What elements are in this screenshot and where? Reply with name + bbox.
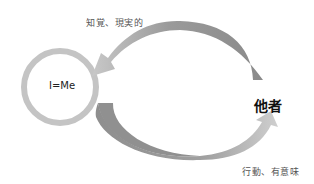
- self-other-cycle-diagram: 知覚、現実的 I=Me 他者 行動、有意味: [0, 0, 314, 184]
- top-arrow-shape: [92, 21, 263, 80]
- bottom-arrow-base: [98, 103, 200, 157]
- diagram-canvas: [0, 0, 314, 184]
- self-node-label: I=Me: [49, 80, 75, 91]
- other-node-label: 他者: [254, 95, 282, 115]
- bottom-arrow-action: [96, 103, 278, 160]
- top-arrow-label: 知覚、現実的: [86, 16, 143, 29]
- bottom-arrow-label: 行動、有意味: [242, 165, 299, 178]
- top-arrow-perception: [92, 21, 263, 80]
